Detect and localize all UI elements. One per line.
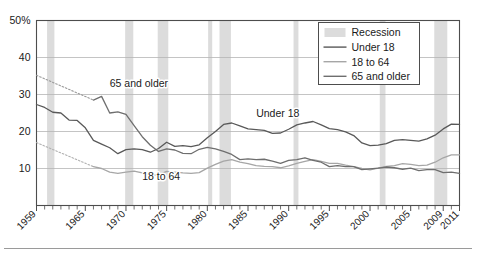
x-tick-label-1980: 1980 [185, 208, 209, 232]
y-tick-label-50: 50% [9, 14, 30, 26]
poverty-rate-line-chart: 1020304050%19591965197019751980198519901… [0, 0, 477, 261]
x-tick-label-2000: 2000 [348, 208, 372, 232]
legend-label-65-and-older: 65 and older [352, 70, 411, 82]
recession-band-4 [220, 21, 231, 206]
recession-band-0 [47, 21, 54, 206]
recession-band-1 [125, 21, 133, 206]
x-tick-label-2011: 2011 [438, 208, 461, 231]
legend-label-18-to-64: 18 to 64 [352, 56, 390, 68]
y-tick-label-20: 20 [19, 125, 31, 137]
legend-swatch-recession [325, 28, 346, 37]
y-tick-label-10: 10 [19, 162, 31, 174]
x-tick-label-1970: 1970 [104, 208, 128, 232]
x-tick-label-1990: 1990 [267, 208, 291, 232]
annotation-under-18: Under 18 [256, 107, 299, 119]
x-tick-label-2005: 2005 [389, 208, 413, 232]
annotation-18-to-64: 18 to 64 [142, 170, 180, 182]
legend-label-under-18: Under 18 [352, 41, 395, 53]
page-bottom-rule [4, 248, 472, 249]
y-tick-label-30: 30 [19, 88, 31, 100]
x-tick-label-1975: 1975 [145, 208, 169, 232]
x-tick-label-1959: 1959 [14, 208, 38, 232]
recession-band-3 [208, 21, 212, 206]
x-tick-label-1965: 1965 [63, 208, 87, 232]
x-tick-label-1985: 1985 [226, 208, 250, 232]
recession-band-7 [434, 21, 447, 206]
x-tick-label-1995: 1995 [307, 208, 331, 232]
legend-label-recession: Recession [352, 26, 401, 38]
chart-canvas: 1020304050%19591965197019751980198519901… [0, 0, 477, 261]
annotation-65-and-older: 65 and older [110, 77, 169, 89]
y-tick-label-40: 40 [19, 51, 31, 63]
